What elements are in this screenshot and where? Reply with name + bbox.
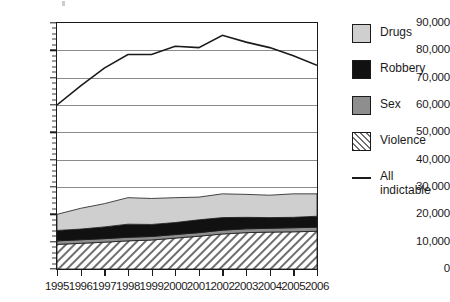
x-tick-mark	[270, 270, 271, 276]
y-tick-label: 10,000	[400, 236, 450, 248]
x-tick-label: 2001	[187, 281, 211, 293]
x-tick-mark	[152, 270, 153, 276]
x-tick-mark	[128, 270, 129, 276]
legend-label-all-indictable: All indictable	[380, 168, 431, 197]
all-indictable-line-icon	[352, 168, 371, 187]
x-tick-label: 2002	[210, 281, 234, 293]
x-tick-label: 2004	[258, 281, 282, 293]
legend-label-violence: Violence	[380, 132, 426, 148]
x-tick-label: 2005	[281, 281, 305, 293]
legend-item-robbery[interactable]: Robbery	[352, 60, 425, 79]
x-tick-mark	[175, 270, 176, 276]
legend-label-indictable: indictable	[380, 183, 431, 197]
x-tick-label: 2003	[234, 281, 258, 293]
legend-label-sex: Sex	[380, 96, 401, 112]
line-series-all-indictable	[57, 35, 317, 105]
x-tick-mark	[222, 270, 223, 276]
x-tick-mark	[104, 270, 105, 276]
x-tick-mark	[81, 270, 82, 276]
legend-item-all-indictable[interactable]: All indictable	[352, 168, 431, 197]
x-tick-mark	[317, 270, 318, 276]
x-tick-mark	[199, 270, 200, 276]
sex-swatch-icon	[352, 96, 371, 115]
drugs-swatch-icon	[352, 24, 371, 43]
legend-label-robbery: Robbery	[380, 60, 425, 76]
x-tick-mark	[57, 270, 58, 276]
y-tick-label: 40,000	[400, 154, 450, 166]
x-tick-label: 1999	[140, 281, 164, 293]
chart-canvas	[57, 23, 317, 269]
x-tick-mark	[246, 270, 247, 276]
robbery-swatch-icon	[352, 60, 371, 79]
legend-item-violence[interactable]: Violence	[352, 132, 426, 151]
plot-area	[56, 22, 318, 270]
legend-label-all: All	[380, 169, 393, 183]
y-tick-label: 80,000	[400, 45, 450, 57]
chart-root: 010,00020,00030,00040,00050,00060,00070,…	[0, 0, 450, 302]
legend-label-drugs: Drugs	[380, 24, 412, 40]
violence-swatch-icon	[352, 132, 371, 151]
x-tick-mark	[293, 270, 294, 276]
y-tick-label: 20,000	[400, 209, 450, 221]
y-tick-label: 60,000	[400, 99, 450, 111]
x-tick-label: 2000	[163, 281, 187, 293]
legend-item-sex[interactable]: Sex	[352, 96, 401, 115]
y-tick-label: 0	[400, 263, 450, 275]
legend-item-drugs[interactable]: Drugs	[352, 24, 412, 43]
x-tick-label: 1998	[116, 281, 140, 293]
x-tick-label: 1995	[45, 281, 69, 293]
x-tick-label: 1997	[92, 281, 116, 293]
title-artifact	[62, 1, 65, 6]
x-tick-label: 1996	[69, 281, 93, 293]
x-tick-label: 2006	[305, 281, 329, 293]
